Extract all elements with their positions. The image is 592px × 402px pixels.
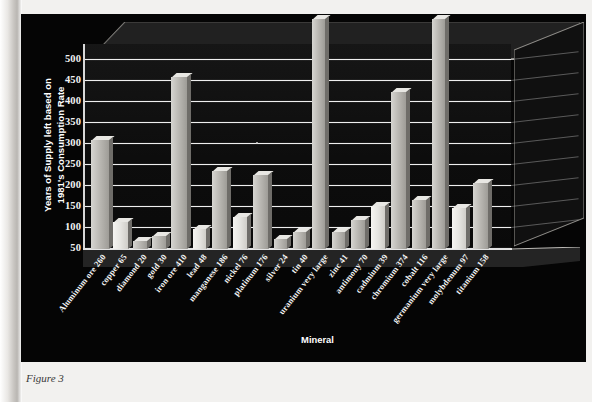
bar-aluminum-ore — [91, 140, 109, 249]
bar-antimony — [351, 220, 365, 249]
bar-tin — [293, 232, 306, 249]
bar-side-face — [268, 172, 272, 249]
bar-front-face — [432, 19, 445, 249]
bar-front-face — [371, 206, 385, 249]
bar-front-face — [351, 220, 365, 249]
bar-side-face — [128, 219, 132, 249]
bar-platinum — [253, 175, 268, 249]
bar-front-face — [113, 222, 128, 249]
page-gutter — [0, 0, 22, 402]
bar-front-face — [391, 92, 406, 249]
bar-front-face — [253, 175, 268, 249]
bar-front-face — [412, 200, 426, 249]
bar-molybdenum — [452, 208, 466, 249]
bar-chromium — [391, 92, 406, 249]
figure-caption: Figure 3 — [26, 372, 64, 384]
bar-side-face — [445, 16, 449, 249]
bar-front-face — [332, 232, 345, 249]
bar-diamond — [133, 241, 147, 249]
bar-side-face — [227, 168, 231, 249]
bar-front-face — [152, 236, 166, 249]
bar-side-face — [365, 217, 369, 249]
bar-nickel — [233, 217, 247, 249]
bar-side-face — [385, 203, 389, 249]
bar-front-face — [133, 241, 147, 249]
bar-front-face — [274, 239, 287, 249]
x-axis-title-text: Mineral — [273, 334, 334, 345]
bar-side-face — [166, 233, 170, 249]
bar-cadmium — [371, 206, 385, 249]
bar-gold — [152, 236, 166, 249]
bar-front-face — [212, 171, 227, 249]
bar-side-face — [147, 238, 151, 249]
bar-iron-ore — [171, 77, 187, 249]
bar-front-face — [171, 77, 187, 249]
bar-front-face — [233, 217, 247, 249]
bar-side-face — [247, 214, 251, 249]
bar-side-face — [187, 74, 191, 249]
y-axis-title-line2: 1981's Consumption Rate — [54, 50, 67, 240]
bar-side-face — [306, 229, 310, 249]
figure-page: 500 450 400 350 300 250 200 150 100 50 Y… — [0, 0, 592, 402]
y-axis-title: Years of Supply left based on 1981's Con… — [41, 50, 67, 240]
bar-zinc — [332, 232, 345, 249]
bar-side-face — [406, 89, 410, 249]
bar-silver — [274, 239, 287, 249]
bar-titanium — [473, 183, 488, 249]
bar-front-face — [452, 208, 466, 249]
y-axis-title-line1: Years of Supply left based on — [41, 50, 54, 240]
bar-uranium — [312, 19, 325, 249]
y-tick-label: 50 — [37, 242, 81, 253]
bar-side-face — [488, 180, 492, 249]
bar-side-face — [345, 229, 349, 249]
bar-side-face — [206, 226, 210, 249]
bar-cobalt — [412, 200, 426, 249]
x-axis-tick-labels: Aluminum ore 260 copper 65 diamond 20 go… — [83, 252, 583, 362]
bar-front-face — [473, 183, 488, 249]
bar-front-face — [312, 19, 325, 249]
bar-front-face — [193, 229, 206, 249]
bar-side-face — [466, 205, 470, 249]
bar-side-face — [426, 197, 430, 249]
bar-front-face — [293, 232, 306, 249]
bar-manganese — [212, 171, 227, 249]
image-speck — [256, 142, 258, 144]
bar-copper — [113, 222, 128, 249]
bar-side-face — [325, 16, 329, 249]
bar-front-face — [91, 140, 109, 249]
bar-germanium — [432, 19, 445, 249]
bar-lead — [193, 229, 206, 249]
chart-plate: 500 450 400 350 300 250 200 150 100 50 Y… — [21, 14, 586, 362]
x-axis-title: Mineral — [21, 334, 586, 345]
bar-side-face — [287, 236, 291, 249]
